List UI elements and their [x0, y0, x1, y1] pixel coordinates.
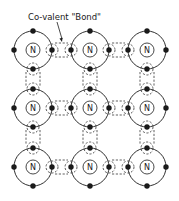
atom-symbol: N [30, 104, 36, 113]
atom-symbol: N [87, 163, 93, 172]
nitrogen-atom: N [125, 28, 168, 71]
electron-dot [11, 105, 16, 110]
electron-dot [106, 105, 111, 110]
nitrogen-atom: N [11, 145, 54, 188]
atom-symbol: N [144, 163, 150, 172]
electron-dot [163, 105, 168, 110]
atom-symbol: N [144, 104, 150, 113]
electron-dot [144, 183, 149, 188]
electron-dot [87, 66, 92, 71]
electron-dot [30, 124, 35, 129]
electron-dot [144, 28, 149, 33]
electron-dot [68, 47, 73, 52]
electron-dot [163, 47, 168, 52]
atom-symbol: N [30, 163, 36, 172]
covalent-bond-label-text: Co-valent "Bond" [28, 12, 101, 22]
electron-dot [49, 47, 54, 52]
covalent-bond-label: Co-valent "Bond" [28, 12, 101, 42]
atom-symbol: N [30, 46, 36, 55]
electron-dot [125, 47, 130, 52]
nitrogen-atom: N [11, 86, 54, 129]
atom-symbol: N [87, 104, 93, 113]
electron-dot [49, 164, 54, 169]
atom-symbol: N [144, 46, 150, 55]
electron-dot [87, 86, 92, 91]
electron-dot [11, 47, 16, 52]
nitrogen-atoms: NNNNNNNNN [11, 28, 168, 188]
electron-dot [144, 86, 149, 91]
electron-dot [30, 86, 35, 91]
electron-dot [87, 145, 92, 150]
electron-dot [87, 124, 92, 129]
nitrogen-atom: N [125, 145, 168, 188]
electron-dot [144, 124, 149, 129]
nitrogen-atom: N [68, 28, 111, 71]
nitrogen-atom: N [11, 28, 54, 71]
nitrogen-atom: N [68, 86, 111, 129]
electron-dot [30, 28, 35, 33]
electron-dot [87, 28, 92, 33]
arrowhead-icon [59, 38, 62, 42]
nitrogen-atom: N [125, 86, 168, 129]
electron-dot [106, 164, 111, 169]
covalent-bond-lattice-diagram: NNNNNNNNN Co-valent "Bond" [0, 0, 179, 201]
electron-dot [106, 47, 111, 52]
electron-dot [30, 183, 35, 188]
electron-dot [30, 66, 35, 71]
atom-symbol: N [87, 46, 93, 55]
electron-dot [30, 145, 35, 150]
electron-dot [49, 105, 54, 110]
electron-dot [68, 105, 73, 110]
electron-dot [144, 145, 149, 150]
electron-dot [11, 164, 16, 169]
electron-dot [87, 183, 92, 188]
electron-dot [125, 164, 130, 169]
electron-dot [144, 66, 149, 71]
electron-dot [68, 164, 73, 169]
nitrogen-atom: N [68, 145, 111, 188]
electron-dot [163, 164, 168, 169]
electron-dot [125, 105, 130, 110]
label-arrow-icon [57, 22, 62, 39]
